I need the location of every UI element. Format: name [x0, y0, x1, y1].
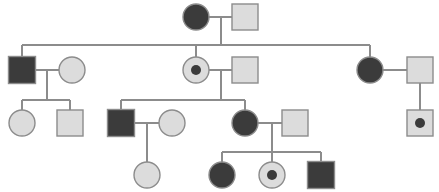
carrier-dot-III-7-icon: [415, 118, 425, 128]
carrier-dot-II-3-icon: [191, 65, 201, 75]
carrier-dot-IV-3-icon: [267, 170, 277, 180]
sibship-IV-group: [222, 152, 321, 162]
sibship-III-group: [22, 100, 245, 110]
individual-II-2-female-unaffected[interactable]: [59, 57, 85, 83]
individual-III-2-male-unaffected[interactable]: [57, 110, 83, 136]
individual-I-1-female-affected[interactable]: [183, 4, 209, 30]
individual-III-1-female-unaffected[interactable]: [9, 110, 35, 136]
pedigree-chart: [0, 0, 439, 192]
individual-I-2-male-unaffected[interactable]: [232, 4, 258, 30]
individual-II-4-male-unaffected[interactable]: [232, 57, 258, 83]
individual-IV-2-female-affected[interactable]: [209, 162, 235, 188]
pedigree-diagram: [0, 0, 439, 192]
individual-IV-4-male-affected[interactable]: [308, 162, 335, 189]
individual-II-1-male-affected[interactable]: [9, 57, 36, 84]
generation-I-group: [183, 4, 258, 45]
individual-III-4-female-unaffected[interactable]: [159, 110, 185, 136]
individual-III-3-male-affected[interactable]: [108, 110, 135, 137]
individual-IV-1-female-unaffected[interactable]: [134, 162, 160, 188]
generation-II-group: [9, 57, 434, 111]
generation-III-group: [9, 110, 433, 163]
individual-III-6-male-unaffected[interactable]: [282, 110, 308, 136]
individual-II-6-male-unaffected[interactable]: [407, 57, 433, 83]
individual-III-5-female-affected[interactable]: [232, 110, 258, 136]
sibship-II-group: [22, 45, 370, 57]
generation-IV-group: [134, 162, 335, 189]
individual-II-5-female-affected[interactable]: [357, 57, 383, 83]
